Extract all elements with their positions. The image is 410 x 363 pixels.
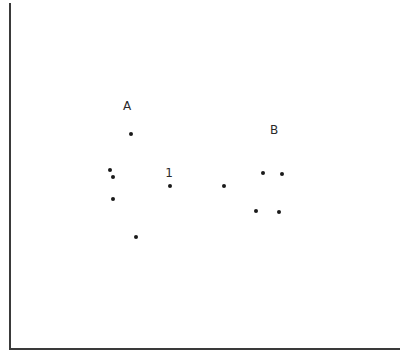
data-point xyxy=(254,209,258,213)
data-point xyxy=(168,184,172,188)
y-axis xyxy=(9,3,11,350)
data-point xyxy=(111,197,115,201)
data-point xyxy=(134,235,138,239)
data-point xyxy=(111,175,115,179)
annotation-label: B xyxy=(270,124,278,136)
x-axis xyxy=(9,348,400,350)
data-point xyxy=(129,132,133,136)
data-point xyxy=(108,168,112,172)
data-point xyxy=(280,172,284,176)
data-point xyxy=(222,184,226,188)
data-point xyxy=(277,210,281,214)
data-point xyxy=(261,171,265,175)
annotation-label: A xyxy=(123,100,131,112)
annotation-label: 1 xyxy=(165,167,173,179)
scatter-plot: AB1 xyxy=(0,0,410,363)
